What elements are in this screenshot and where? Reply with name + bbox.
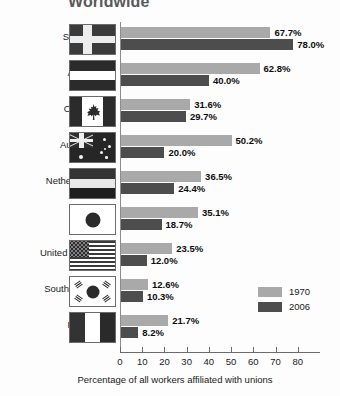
legend-item: 2006 — [258, 300, 328, 315]
bar-value-2006: 10.3% — [147, 291, 174, 302]
tick-mark — [209, 347, 210, 352]
japan-flag-icon — [69, 204, 116, 235]
sweden-flag-icon — [69, 24, 116, 55]
tick-mark — [120, 347, 121, 352]
bar-1970 — [120, 27, 270, 38]
south-korea-flag-icon — [69, 276, 116, 307]
bar-2006 — [120, 75, 209, 86]
chart-container: Worldwide Sweden67.7%78.0%Austria62.8%40… — [0, 0, 340, 396]
x-axis-line — [120, 352, 320, 353]
maple-leaf-icon — [85, 103, 101, 121]
bar-value-2006: 78.0% — [297, 39, 324, 50]
chart-row: France21.7%8.2% — [0, 310, 340, 346]
united-states-flag-icon — [69, 240, 116, 271]
legend-label: 2006 — [289, 300, 310, 314]
france-flag-icon — [69, 312, 116, 343]
legend-label: 1970 — [289, 285, 310, 299]
chart-legend: 19702006 — [258, 285, 328, 315]
bar-2006 — [120, 183, 174, 194]
bar-value-1970: 12.6% — [152, 279, 179, 290]
chart-row: Australia50.2%20.0% — [0, 130, 340, 166]
bar-2006 — [120, 327, 138, 338]
tick-label: 80 — [292, 356, 303, 367]
bar-1970 — [120, 207, 198, 218]
bar-value-2006: 20.0% — [168, 147, 195, 158]
bar-1970 — [120, 99, 190, 110]
x-axis-label: Percentage of all workers affiliated wit… — [0, 374, 340, 385]
y-axis-line — [120, 22, 121, 352]
bar-2006 — [120, 219, 162, 230]
bar-2006 — [120, 111, 186, 122]
bar-1970 — [120, 135, 232, 146]
bar-value-1970: 67.7% — [274, 27, 301, 38]
tick-mark — [276, 347, 277, 352]
bar-value-1970: 36.5% — [205, 171, 232, 182]
bar-value-1970: 23.5% — [176, 243, 203, 254]
bar-value-1970: 62.8% — [264, 63, 291, 74]
bar-2006 — [120, 291, 143, 302]
tick-mark — [187, 347, 188, 352]
tick-mark — [253, 347, 254, 352]
chart-row: Japan35.1%18.7% — [0, 202, 340, 238]
bar-1970 — [120, 171, 201, 182]
canada-flag-icon — [69, 96, 116, 127]
tick-label: 40 — [204, 356, 215, 367]
bar-2006 — [120, 255, 147, 266]
legend-swatch — [258, 302, 282, 312]
chart-title: Worldwide — [68, 0, 150, 11]
bar-value-2006: 12.0% — [151, 255, 178, 266]
bar-1970 — [120, 243, 172, 254]
tick-label: 70 — [270, 356, 281, 367]
chart-row: Canada31.6%29.7% — [0, 94, 340, 130]
tick-label: 10 — [137, 356, 148, 367]
bar-1970 — [120, 63, 260, 74]
tick-label: 30 — [181, 356, 192, 367]
bar-value-1970: 21.7% — [172, 315, 199, 326]
legend-swatch — [258, 287, 282, 297]
bar-value-1970: 50.2% — [236, 135, 263, 146]
tick-label: 20 — [159, 356, 170, 367]
tick-mark — [164, 347, 165, 352]
bar-value-1970: 35.1% — [202, 207, 229, 218]
tick-mark — [142, 347, 143, 352]
bar-value-2006: 40.0% — [213, 75, 240, 86]
chart-row: Netherlands36.5%24.4% — [0, 166, 340, 202]
tick-mark — [231, 347, 232, 352]
bar-1970 — [120, 315, 168, 326]
tick-label: 60 — [248, 356, 259, 367]
bar-value-2006: 18.7% — [166, 219, 193, 230]
bar-2006 — [120, 39, 293, 50]
tick-label: 50 — [226, 356, 237, 367]
chart-row: Sweden67.7%78.0% — [0, 22, 340, 58]
legend-item: 1970 — [258, 285, 328, 300]
bar-value-2006: 8.2% — [142, 327, 164, 338]
bar-value-2006: 24.4% — [178, 183, 205, 194]
bar-value-1970: 31.6% — [194, 99, 221, 110]
bar-value-2006: 29.7% — [190, 111, 217, 122]
chart-row: Austria62.8%40.0% — [0, 58, 340, 94]
austria-flag-icon — [69, 60, 116, 91]
bar-1970 — [120, 279, 148, 290]
tick-label: 0 — [117, 356, 122, 367]
netherlands-flag-icon — [69, 168, 116, 199]
bar-2006 — [120, 147, 164, 158]
australia-flag-icon — [69, 132, 116, 163]
tick-mark — [298, 347, 299, 352]
chart-row: United States23.5%12.0% — [0, 238, 340, 274]
